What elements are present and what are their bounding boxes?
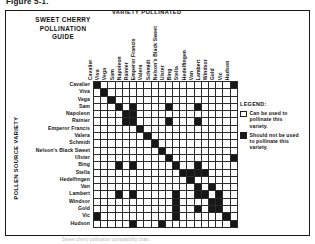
matrix-cell — [137, 118, 144, 125]
matrix-cell — [231, 177, 238, 184]
matrix-cell — [209, 177, 216, 184]
matrix-cell — [231, 82, 238, 89]
matrix-cell — [144, 191, 151, 198]
matrix-cell — [187, 111, 194, 118]
matrix-cell — [123, 162, 130, 169]
matrix-cell — [223, 199, 230, 206]
matrix-cell — [94, 118, 101, 125]
matrix-cell — [94, 191, 101, 198]
matrix-row — [94, 104, 238, 111]
row-header-viva: Viva — [18, 88, 92, 95]
matrix-cell — [144, 221, 151, 228]
matrix-cell — [209, 221, 216, 228]
matrix-cell — [108, 199, 115, 206]
matrix-cell — [101, 148, 108, 155]
matrix-cell — [223, 118, 230, 125]
matrix-cell — [202, 155, 209, 162]
matrix-cell — [130, 213, 137, 220]
matrix-cell — [166, 155, 173, 162]
matrix-cell — [180, 221, 187, 228]
matrix-cell — [137, 184, 144, 191]
matrix-cell — [173, 155, 180, 162]
matrix-cell — [223, 111, 230, 118]
matrix-cell — [173, 170, 180, 177]
matrix-cell — [180, 199, 187, 206]
matrix-cell — [144, 118, 151, 125]
matrix-cell — [108, 104, 115, 111]
matrix-cell — [130, 184, 137, 191]
matrix-row — [94, 221, 238, 228]
matrix-cell — [231, 111, 238, 118]
matrix-cell — [130, 177, 137, 184]
matrix-cell — [144, 199, 151, 206]
matrix-cell — [130, 104, 137, 111]
matrix-cell — [130, 199, 137, 206]
matrix-cell — [202, 199, 209, 206]
matrix-cell — [216, 104, 223, 111]
matrix-cell — [130, 111, 137, 118]
legend-title: LEGEND: — [240, 101, 302, 107]
matrix-cell — [216, 89, 223, 96]
matrix-cell — [216, 177, 223, 184]
matrix-cell — [187, 97, 194, 104]
matrix-cell — [152, 155, 159, 162]
matrix-cell — [173, 191, 180, 198]
matrix-cell — [130, 118, 137, 125]
matrix-cell — [231, 148, 238, 155]
matrix-cell — [223, 184, 230, 191]
matrix-cell — [101, 191, 108, 198]
matrix-cell — [231, 213, 238, 220]
matrix-cell — [108, 118, 115, 125]
matrix-cell — [209, 206, 216, 213]
matrix-cell — [166, 89, 173, 96]
matrix-cell — [216, 126, 223, 133]
matrix-cell — [231, 89, 238, 96]
matrix-cell — [209, 133, 216, 140]
matrix-cell — [123, 170, 130, 177]
matrix-cell — [94, 184, 101, 191]
matrix-cell — [159, 162, 166, 169]
row-header-hedelfingen: Hedelfingen — [18, 176, 92, 183]
matrix-cell — [94, 97, 101, 104]
matrix-cell — [144, 162, 151, 169]
matrix-cell — [209, 162, 216, 169]
matrix-cell — [94, 221, 101, 228]
matrix-cell — [108, 162, 115, 169]
matrix-cell — [202, 184, 209, 191]
matrix-cell — [159, 184, 166, 191]
matrix-cell — [137, 191, 144, 198]
row-header-valera: Valera — [18, 132, 92, 139]
matrix-cell — [180, 82, 187, 89]
matrix-cell — [166, 140, 173, 147]
matrix-cell — [130, 140, 137, 147]
column-header-group: CavalierVivaVegaSamNapoleonRainierEmpero… — [93, 24, 237, 81]
matrix-cell — [173, 221, 180, 228]
matrix-cell — [152, 126, 159, 133]
matrix-cell — [209, 82, 216, 89]
legend-item-incompatible: Should not be used to pollinate this var… — [240, 132, 302, 151]
matrix-cell — [187, 126, 194, 133]
row-header-ulster: Ulster — [18, 154, 92, 161]
matrix-cell — [159, 133, 166, 140]
matrix-cell — [123, 177, 130, 184]
matrix-cell — [216, 191, 223, 198]
matrix-cell — [180, 111, 187, 118]
matrix-cell — [187, 140, 194, 147]
matrix-cell — [223, 177, 230, 184]
matrix-cell — [116, 206, 123, 213]
matrix-cell — [144, 206, 151, 213]
column-header-hudson: Hudson — [224, 25, 231, 81]
column-header-gold: Gold — [209, 25, 216, 81]
matrix-cell — [166, 111, 173, 118]
matrix-cell — [209, 126, 216, 133]
row-header-windsor: Windsor — [18, 198, 92, 205]
column-header-hedelfingen: Hedelfingen — [180, 25, 187, 81]
matrix-cell — [173, 82, 180, 89]
matrix-cell — [116, 184, 123, 191]
matrix-cell — [209, 184, 216, 191]
matrix-cell — [159, 148, 166, 155]
matrix-cell — [202, 82, 209, 89]
matrix-cell — [166, 206, 173, 213]
x-axis-title: VARIETY POLLINATED — [112, 9, 182, 15]
matrix-row — [94, 170, 238, 177]
